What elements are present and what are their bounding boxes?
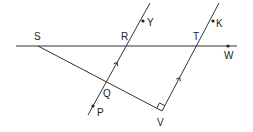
point-w-dot: [226, 44, 229, 47]
label-k: K: [216, 18, 223, 29]
segment-sv: [38, 46, 162, 111]
label-t: T: [193, 31, 199, 42]
geometry-diagram: S R T W Y K Q P V: [0, 0, 253, 132]
label-q: Q: [103, 88, 111, 99]
label-p: P: [97, 107, 104, 118]
label-s: S: [34, 31, 41, 42]
label-w: W: [224, 50, 234, 61]
line-py: [88, 3, 150, 115]
label-r: R: [121, 31, 128, 42]
point-k-dot: [211, 19, 214, 22]
line-vk: [162, 3, 219, 111]
label-v: V: [157, 117, 164, 128]
label-y: Y: [147, 17, 154, 28]
point-p-dot: [91, 104, 94, 107]
point-y-dot: [141, 19, 144, 22]
